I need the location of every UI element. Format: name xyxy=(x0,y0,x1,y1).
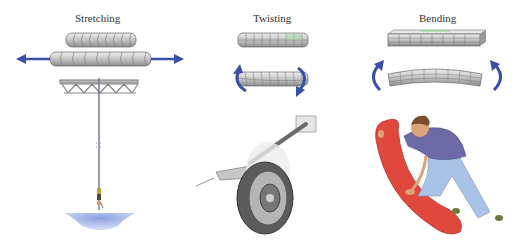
straight-beam-icon xyxy=(388,30,486,46)
untwisted-cylinder-icon xyxy=(238,33,308,47)
twisted-cylinder-icon xyxy=(238,72,308,86)
person-bending-board-icon xyxy=(376,116,503,234)
twisting-panel xyxy=(196,33,316,234)
bungee-jumper-icon xyxy=(97,188,103,208)
stretching-panel xyxy=(16,33,184,230)
bent-beam-icon xyxy=(388,69,482,86)
water-icon xyxy=(64,213,136,230)
illustration xyxy=(0,0,521,245)
unstretched-cylinder-icon xyxy=(66,33,136,47)
torsion-bar-suspension-icon xyxy=(196,116,316,234)
stretched-cylinder-icon xyxy=(50,52,151,66)
bending-panel xyxy=(373,30,503,234)
